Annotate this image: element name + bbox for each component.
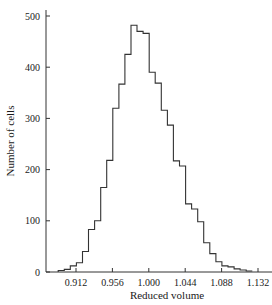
x-tick-label: 1.000 — [138, 277, 161, 288]
histogram-chart: 0100200300400500 Number of cells 0.9120.… — [0, 0, 272, 305]
y-tick-label: 300 — [25, 113, 40, 124]
x-ticks: 0.9120.9561.0001.0441.0881.132 — [65, 268, 270, 288]
y-tick-label: 500 — [25, 11, 40, 22]
x-axis: 0.9120.9561.0001.0441.0881.132 Reduced v… — [46, 268, 272, 301]
y-axis: 0100200300400500 Number of cells — [4, 10, 50, 278]
y-tick-label: 100 — [25, 215, 40, 226]
histogram-step-line — [58, 25, 252, 272]
y-tick-label: 0 — [35, 267, 40, 278]
y-axis-label: Number of cells — [4, 106, 16, 177]
x-tick-label: 1.088 — [210, 277, 233, 288]
x-tick-label: 1.132 — [247, 277, 270, 288]
y-tick-label: 400 — [25, 62, 40, 73]
x-axis-label: Reduced volume — [130, 289, 204, 301]
x-tick-label: 0.956 — [101, 277, 124, 288]
y-tick-label: 200 — [25, 164, 40, 175]
x-tick-label: 1.044 — [174, 277, 197, 288]
x-tick-label: 0.912 — [65, 277, 88, 288]
